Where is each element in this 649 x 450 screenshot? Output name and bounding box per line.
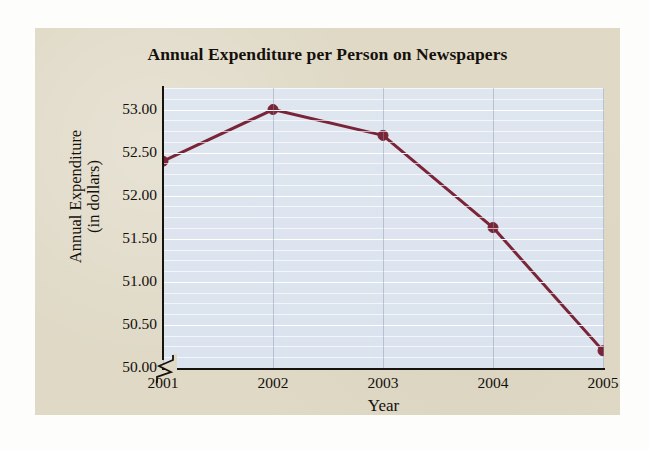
plot-area	[163, 88, 604, 368]
x-axis-title: Year	[163, 396, 604, 416]
x-axis-tick-label: 2002	[238, 374, 308, 392]
x-axis-tick-label: 2003	[348, 374, 418, 392]
chart-page: Annual Expenditure per Person on Newspap…	[0, 0, 649, 450]
y-axis-line	[162, 86, 164, 360]
y-axis-title-line-1: Annual Expenditure	[67, 86, 85, 306]
figure-panel: Annual Expenditure per Person on Newspap…	[35, 28, 620, 415]
vertical-gridline	[273, 88, 274, 368]
y-axis-title: Annual Expenditure (in dollars)	[67, 86, 104, 306]
x-axis-tick-label: 2001	[128, 374, 198, 392]
x-axis-line	[162, 368, 605, 370]
vertical-gridline	[383, 88, 384, 368]
x-axis-tick-label: 2005	[568, 374, 638, 392]
vertical-gridline	[493, 88, 494, 368]
x-axis-tick-labels: 20012002200320042005	[163, 374, 604, 398]
y-axis-tick-label: 50.50	[87, 315, 157, 333]
x-axis-tick-label: 2004	[458, 374, 528, 392]
y-axis-title-line-2: (in dollars)	[85, 86, 103, 306]
vertical-gridline	[603, 88, 604, 368]
